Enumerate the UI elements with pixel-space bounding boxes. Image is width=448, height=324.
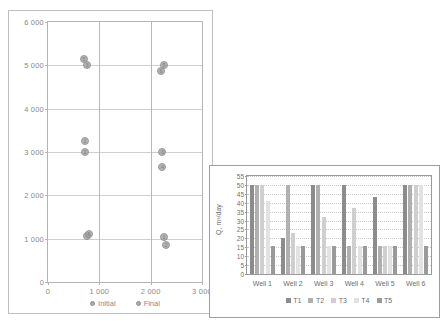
bar-rect	[419, 185, 423, 274]
bar-legend-label: T4	[361, 297, 369, 304]
scatter-legend-item: Initial	[90, 299, 116, 308]
bar-rect	[266, 201, 270, 274]
scatter-data-point: 1	[81, 137, 89, 145]
scatter-y-axis-label: 4 000	[24, 104, 48, 113]
bar-legend-label: T3	[339, 297, 347, 304]
scatter-gridline-vertical	[99, 22, 100, 282]
bar-group	[339, 176, 370, 274]
bar-rect	[311, 185, 315, 274]
bar-group	[247, 176, 278, 274]
scatter-gridline-horizontal	[48, 109, 202, 110]
scatter-gridline-vertical	[151, 22, 152, 282]
bar-legend-item: T4	[354, 297, 370, 304]
bar-rect	[363, 246, 367, 275]
scatter-legend-marker-icon	[136, 301, 141, 306]
scatter-legend-marker-icon	[90, 301, 95, 306]
scatter-y-axis-label: 6 000	[24, 18, 48, 27]
bar-legend-swatch-icon	[286, 298, 291, 303]
bar-x-axis-label: Well 2	[283, 274, 302, 287]
scatter-data-point: 3	[158, 148, 166, 156]
bar-group	[400, 176, 431, 274]
bar-x-axis-label: Well 5	[375, 274, 394, 287]
scatter-data-point: 1	[160, 233, 168, 241]
bar-legend-item: T5	[377, 297, 393, 304]
bar-rect	[291, 233, 295, 274]
scatter-y-axis-label: 2 000	[24, 191, 48, 200]
scatter-y-axis-label: 3 000	[24, 148, 48, 157]
bar-y-axis-label: 10	[237, 253, 247, 260]
bar-rect	[332, 246, 336, 275]
bar-x-axis-label: Well 1	[253, 274, 272, 287]
bar-rect	[383, 246, 387, 275]
bar-rect	[301, 246, 305, 275]
bar-rect	[388, 246, 392, 275]
scatter-gridline-horizontal	[48, 65, 202, 66]
bar-rect	[296, 246, 300, 275]
bar-rect	[414, 185, 418, 274]
bar-legend-label: T2	[316, 297, 324, 304]
bar-rect	[347, 246, 351, 275]
scatter-gridline-horizontal	[48, 195, 202, 196]
scatter-gridline-horizontal	[48, 152, 202, 153]
bar-y-axis-label: 30	[237, 217, 247, 224]
scatter-data-point: 2	[162, 241, 170, 249]
bar-y-axis-label: 50	[237, 181, 247, 188]
bar-chart-legend: T1T2T3T4T5	[246, 297, 432, 304]
scatter-legend-label: Final	[144, 299, 160, 308]
scatter-data-point: 6	[157, 67, 165, 75]
scatter-x-axis-label: 2 000	[141, 282, 161, 296]
bar-x-axis-label: Well 6	[406, 274, 425, 287]
bar-y-axis-label: 5	[240, 262, 247, 269]
bar-group	[278, 176, 309, 274]
bar-x-axis-label: Well 3	[314, 274, 333, 287]
bar-rect	[393, 246, 397, 275]
bar-y-axis-label: 45	[237, 190, 247, 197]
bar-rect	[373, 197, 377, 274]
bar-rect	[322, 217, 326, 274]
scatter-legend-item: Final	[136, 299, 160, 308]
bar-y-axis-label: 15	[237, 244, 247, 251]
bar-legend-item: T2	[308, 297, 324, 304]
bar-plot-area: 0510152025303540455055Well 1Well 2Well 3…	[246, 175, 432, 275]
bar-chart-y-axis-title: Q, m³/day	[215, 185, 222, 255]
bar-legend-swatch-icon	[354, 298, 359, 303]
bar-rect	[260, 185, 264, 274]
scatter-data-point: 6	[85, 230, 93, 238]
bar-rect	[358, 246, 362, 275]
scatter-data-point: 2	[81, 148, 89, 156]
bar-legend-swatch-icon	[331, 298, 336, 303]
bar-y-axis-label: 55	[237, 173, 247, 180]
bar-rect	[342, 185, 346, 274]
bar-y-axis-label: 40	[237, 199, 247, 206]
bar-legend-swatch-icon	[308, 298, 313, 303]
bar-y-axis-label: 35	[237, 208, 247, 215]
bar-rect	[316, 185, 320, 274]
bar-y-axis-label: 20	[237, 235, 247, 242]
scatter-data-point: 3	[83, 61, 91, 69]
bar-rect	[424, 246, 428, 275]
bar-rect	[286, 185, 290, 274]
bar-legend-label: T5	[384, 297, 392, 304]
bar-rect	[408, 185, 412, 274]
bar-rect	[327, 246, 331, 275]
bar-rect	[281, 238, 285, 274]
scatter-data-point: 4	[158, 163, 166, 171]
bar-rect	[271, 246, 275, 275]
bar-rect	[250, 185, 254, 274]
scatter-legend: InitialFinal	[47, 299, 203, 308]
scatter-chart-panel: 01 0002 0003 0004 0005 0006 00001 0002 0…	[8, 10, 213, 314]
scatter-x-axis-label: 0	[46, 282, 50, 296]
bar-x-axis-label: Well 4	[345, 274, 364, 287]
scatter-gridline-horizontal	[48, 239, 202, 240]
bar-y-axis-label: 0	[240, 271, 247, 278]
bar-rect	[352, 208, 356, 274]
bar-group	[308, 176, 339, 274]
bar-group	[370, 176, 401, 274]
bar-rect	[403, 185, 407, 274]
bar-rect	[255, 185, 259, 274]
bar-legend-label: T1	[293, 297, 301, 304]
scatter-legend-label: Initial	[98, 299, 116, 308]
bar-y-axis-label: 25	[237, 226, 247, 233]
bar-legend-item: T3	[331, 297, 347, 304]
bar-legend-item: T1	[286, 297, 302, 304]
